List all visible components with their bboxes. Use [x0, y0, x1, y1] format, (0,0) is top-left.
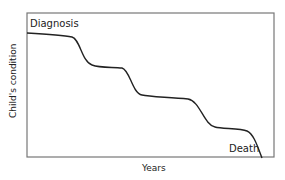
y-axis-label: Child's condition	[8, 44, 18, 118]
condition-curve	[27, 33, 262, 158]
plot-frame	[27, 13, 274, 157]
death-label: Death	[229, 143, 259, 154]
chart: Diagnosis Death Years Child's condition	[0, 0, 285, 180]
x-axis-label: Years	[141, 163, 166, 173]
diagnosis-label: Diagnosis	[30, 18, 79, 29]
